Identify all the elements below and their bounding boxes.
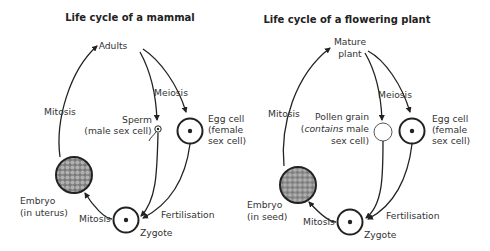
plant-mitosis-arrow <box>283 48 330 166</box>
mammal-egg-label-3: sex cell) <box>208 135 246 146</box>
mammal-mitosis-left-label: Mitosis <box>44 106 76 117</box>
mammal-embryo-label-1: Embryo <box>20 195 56 206</box>
plant-pollen-label-2: (contains male <box>301 123 370 134</box>
mammal-sperm-label-1: Sperm <box>122 114 152 125</box>
mammal-sperm-label-2: (male sex cell) <box>84 125 151 136</box>
plant-cycle: Life cycle of a flowering plant Mature p… <box>247 14 470 240</box>
mammal-mitosis-arrow <box>59 46 97 157</box>
mammal-cycle: Life cycle of a mammal Adults Mitosis Me… <box>20 12 246 238</box>
plant-egg-cell-icon <box>400 119 425 144</box>
mammal-fertilisation-arrow-1 <box>141 133 158 216</box>
plant-zygote-icon <box>338 210 363 235</box>
plant-egg-label-2: (female <box>432 124 468 135</box>
plant-mature-label-2: plant <box>338 48 362 59</box>
mammal-zygote-label: Zygote <box>140 227 173 238</box>
plant-pollen-label-1: Pollen grain <box>315 111 369 122</box>
mammal-egg-label-1: Egg cell <box>208 113 244 124</box>
mammal-egg-label-2: (female <box>208 124 244 135</box>
plant-embryo-label-2: (in seed) <box>247 211 287 222</box>
plant-pollen-label-3: sex cell) <box>331 135 369 146</box>
mammal-embryo-label-2: (in uterus) <box>20 207 68 218</box>
pollen-grain-icon <box>374 123 392 141</box>
mammal-sperm-arrow <box>140 52 157 120</box>
mammal-title: Life cycle of a mammal <box>65 12 195 23</box>
plant-title: Life cycle of a flowering plant <box>263 14 430 25</box>
plant-egg-label-1: Egg cell <box>432 113 468 124</box>
plant-mature-label-1: Mature <box>334 36 367 47</box>
mammal-fertilisation-arrow-2 <box>143 144 190 218</box>
plant-embryo-icon <box>280 167 316 203</box>
mammal-egg-arrow <box>143 49 186 112</box>
egg-cell-icon <box>178 119 203 144</box>
plant-mitosis-left-label: Mitosis <box>268 108 300 119</box>
plant-fertilisation-arrow-1 <box>366 141 383 218</box>
mammal-zygote-icon <box>114 208 139 233</box>
mammal-meiosis-label: Meiosis <box>154 87 188 98</box>
mammal-fertilisation-label: Fertilisation <box>161 209 215 220</box>
plant-egg-arrow <box>368 51 410 112</box>
plant-fertilisation-label: Fertilisation <box>386 210 440 221</box>
mammal-mitosis-bottom-label: Mitosis <box>79 213 111 224</box>
plant-egg-label-3: sex cell) <box>432 135 470 146</box>
plant-embryo-label-1: Embryo <box>247 199 283 210</box>
mammal-adults-label: Adults <box>99 40 128 51</box>
life-cycle-diagram: Life cycle of a mammal Adults Mitosis Me… <box>0 0 490 251</box>
plant-pollen-arrow <box>365 53 382 120</box>
mammal-embryo-icon <box>56 157 92 193</box>
plant-mitosis-bottom-label: Mitosis <box>303 216 335 227</box>
plant-meiosis-label: Meiosis <box>378 89 412 100</box>
plant-zygote-label: Zygote <box>364 229 397 240</box>
